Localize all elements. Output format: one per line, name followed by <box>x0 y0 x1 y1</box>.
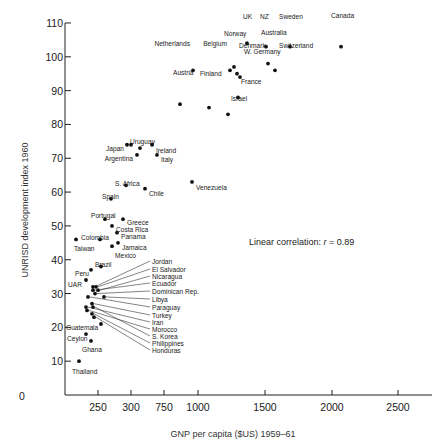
y-tick-label: 100 <box>45 51 63 63</box>
leader-line <box>97 291 150 294</box>
data-point <box>110 224 114 228</box>
point-label: Thailand <box>72 368 98 375</box>
leader-line <box>100 276 150 290</box>
data-point <box>228 68 232 72</box>
data-point <box>190 180 194 184</box>
point-label: Peru <box>75 270 89 277</box>
point-label: Ceylon <box>67 335 88 343</box>
x-tick-label: 300 <box>122 401 140 413</box>
data-point <box>74 238 78 242</box>
data-point <box>266 62 270 66</box>
data-point <box>115 231 119 235</box>
y-tick-label: 90 <box>51 85 63 97</box>
data-point <box>110 244 114 248</box>
data-point <box>102 295 106 299</box>
data-point <box>93 292 97 296</box>
data-point <box>121 217 125 221</box>
point-label: Colombia <box>81 234 109 241</box>
point-label: Netherlands <box>154 40 190 47</box>
leader-label: Iran <box>152 319 164 326</box>
data-point <box>85 309 89 313</box>
point-label: Japan <box>106 145 124 153</box>
point-label: Italy <box>161 156 174 164</box>
point-label: Canada <box>331 12 354 19</box>
leader-label: Dominican Rep. <box>152 288 199 296</box>
y-tick-label: 70 <box>51 152 63 164</box>
data-point <box>86 295 90 299</box>
data-point <box>339 45 343 49</box>
x-tick-label: 1500 <box>253 401 277 413</box>
correlation-annotation: Linear correlation: r = 0.89 <box>249 237 354 247</box>
leader-label: Libya <box>152 296 168 304</box>
x-tick-label: 2500 <box>386 401 410 413</box>
y-tick-label: 50 <box>51 220 63 232</box>
point-label: Ghana <box>82 346 102 353</box>
leader-label: S. Korea <box>152 333 178 340</box>
data-point <box>232 65 236 69</box>
data-point <box>91 305 95 309</box>
point-label: W. Germany <box>244 48 281 56</box>
scatter-chart: 1020304050607080901001100250300750100015… <box>0 0 435 444</box>
point-label: Brazil <box>95 261 112 268</box>
point-label: Norway <box>224 30 247 38</box>
data-point <box>89 268 93 272</box>
data-point <box>178 102 182 106</box>
point-label: S. Africa <box>115 180 140 187</box>
data-point <box>84 305 88 309</box>
leader-lines: JordanEl SalvadorNicaraguaEcuadorDominic… <box>84 258 199 354</box>
chart-canvas: 1020304050607080901001100250300750100015… <box>0 0 435 444</box>
point-label: Costa Rica <box>116 226 149 233</box>
data-point <box>89 339 93 343</box>
data-point <box>94 285 98 289</box>
data-point <box>125 143 129 147</box>
point-label: Jamaica <box>122 244 147 251</box>
data-point <box>207 106 211 110</box>
data-point <box>273 68 277 72</box>
axes: 1020304050607080901001100250300750100015… <box>19 17 432 413</box>
leader-label: El Salvador <box>152 266 187 273</box>
point-label: Israel <box>231 95 248 102</box>
point-label: Austria <box>173 69 194 76</box>
point-label: Belgium <box>203 40 227 48</box>
data-point <box>150 143 154 147</box>
leader-label: Honduras <box>152 347 181 354</box>
data-point <box>92 315 96 319</box>
data-point <box>116 241 120 245</box>
point-label: Greece <box>127 219 149 226</box>
data-point <box>91 288 95 292</box>
data-point <box>138 146 142 150</box>
x-axis-title: GNP per capita ($US) 1959–61 <box>171 429 296 439</box>
data-point <box>84 278 88 282</box>
y-axis-title: UNRISD development index 1960 <box>20 142 30 277</box>
point-label: Venezuela <box>196 184 227 191</box>
y-tick-label: 10 <box>51 355 63 367</box>
data-point <box>99 322 103 326</box>
point-label: Switzerland <box>279 42 313 49</box>
point-label: UAR <box>68 281 82 288</box>
point-label: Panama <box>121 233 146 240</box>
data-point <box>143 187 147 191</box>
point-label: Sweden <box>279 13 303 20</box>
leader-label: Jordan <box>152 258 172 265</box>
point-label: Portugal <box>91 212 116 220</box>
y-tick-label: 110 <box>46 17 63 29</box>
origin-label: 0 <box>19 390 25 402</box>
x-tick-label: 250 <box>89 401 107 413</box>
y-tick-label: 20 <box>51 321 63 333</box>
point-label: Chile <box>149 190 164 197</box>
data-point <box>77 359 81 363</box>
point-label: Finland <box>200 70 222 77</box>
point-label: France <box>241 78 262 85</box>
x-tick-label: 2000 <box>320 401 344 413</box>
point-label: Taiwan <box>74 245 95 252</box>
data-point <box>135 153 139 157</box>
point-label: UK <box>243 13 253 20</box>
x-tick-label: 750 <box>155 401 173 413</box>
point-label: Argentina <box>105 155 134 163</box>
leader-line <box>94 314 150 343</box>
y-tick-label: 40 <box>51 254 63 266</box>
data-point <box>90 312 94 316</box>
data-point <box>90 302 94 306</box>
data-point <box>226 112 230 116</box>
leader-label: Paraguay <box>152 304 181 312</box>
